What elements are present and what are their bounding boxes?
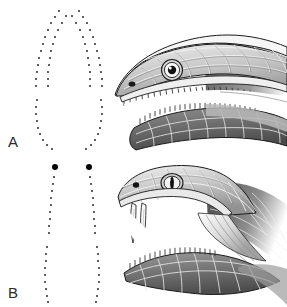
tooth-dot bbox=[36, 71, 38, 73]
tooth-dot bbox=[47, 78, 49, 80]
tooth-dot bbox=[89, 176, 91, 178]
tooth-dot bbox=[89, 71, 91, 73]
tooth-dot bbox=[52, 43, 54, 45]
tooth-dot bbox=[100, 99, 102, 101]
tooth-row-right-maxillary-row bbox=[78, 10, 103, 87]
tooth-dot bbox=[35, 113, 37, 115]
tooth-dot bbox=[50, 204, 52, 206]
tooth-dot bbox=[99, 127, 101, 129]
tooth-dot bbox=[45, 260, 47, 262]
tooth-dot bbox=[97, 260, 99, 262]
tooth-row-left-mandibular-row bbox=[35, 99, 53, 150]
tooth-dot bbox=[90, 183, 92, 185]
tooth-dot bbox=[50, 50, 52, 52]
tooth-dot bbox=[93, 218, 95, 220]
tooth-dot bbox=[78, 10, 80, 12]
panel-a-dentition-diagram bbox=[0, 0, 120, 153]
tooth-dot bbox=[101, 113, 103, 115]
tooth-dot bbox=[65, 15, 67, 17]
tooth-dot bbox=[51, 148, 53, 150]
tooth-row-right-mandibular-row bbox=[85, 99, 103, 150]
snake-a-nostril bbox=[129, 81, 136, 86]
tooth-dot bbox=[46, 295, 48, 297]
tooth-row-right-palatine-pterygoid-row bbox=[89, 176, 96, 234]
tooth-dot bbox=[40, 50, 42, 52]
tooth-dot bbox=[35, 78, 37, 80]
tooth-dot bbox=[100, 71, 102, 73]
tooth-dot bbox=[54, 16, 56, 18]
tooth-dot bbox=[91, 190, 93, 192]
tooth-dot bbox=[101, 85, 103, 87]
viper-b-eye-highlight bbox=[167, 179, 170, 182]
tooth-dot bbox=[101, 78, 103, 80]
viper-b-pupil-vertical-slit bbox=[170, 177, 174, 189]
tooth-dot bbox=[38, 57, 40, 59]
fang-dot-1 bbox=[52, 164, 58, 170]
tooth-dot bbox=[53, 176, 55, 178]
tooth-dot bbox=[39, 133, 41, 135]
tooth-dot bbox=[92, 204, 94, 206]
tooth-dot bbox=[42, 139, 44, 141]
tooth-dot bbox=[50, 22, 52, 24]
tooth-dot bbox=[49, 218, 51, 220]
tooth-dot bbox=[44, 36, 46, 38]
tooth-dot bbox=[49, 211, 51, 213]
tooth-dot bbox=[82, 36, 84, 38]
tooth-dot bbox=[88, 64, 90, 66]
tooth-dot bbox=[97, 253, 99, 255]
tooth-dot bbox=[92, 36, 94, 38]
tooth-dot bbox=[101, 106, 103, 108]
panel-a-snake-head-illustration bbox=[110, 0, 287, 153]
tooth-dot bbox=[89, 29, 91, 31]
tooth-row-right-palatine-pterygoid-row bbox=[71, 15, 91, 87]
tooth-dot bbox=[37, 127, 39, 129]
tooth-dot bbox=[85, 148, 87, 150]
tooth-dot bbox=[82, 16, 84, 18]
tooth-dot bbox=[86, 50, 88, 52]
tooth-dot bbox=[49, 57, 51, 59]
tooth-dot bbox=[89, 78, 91, 80]
tooth-dot bbox=[92, 197, 94, 199]
tooth-dot bbox=[95, 301, 97, 303]
tooth-row-left-palatine-pterygoid-row bbox=[48, 176, 55, 234]
tooth-dot bbox=[48, 64, 50, 66]
tooth-dot bbox=[47, 301, 49, 303]
tooth-dot bbox=[97, 288, 99, 290]
tooth-dot bbox=[45, 253, 47, 255]
tooth-dot bbox=[51, 190, 53, 192]
tooth-dot bbox=[94, 43, 96, 45]
tooth-dot bbox=[98, 281, 100, 283]
tooth-dot bbox=[58, 10, 60, 12]
tooth-row-left-palatine-pterygoid-row bbox=[47, 15, 67, 87]
tooth-dot bbox=[96, 246, 98, 248]
tooth-dot bbox=[37, 64, 39, 66]
tooth-dot bbox=[94, 225, 96, 227]
tooth-dot bbox=[98, 267, 100, 269]
tooth-dot bbox=[47, 85, 49, 87]
tooth-dot bbox=[96, 295, 98, 297]
snake-a-eye-highlight bbox=[169, 67, 172, 70]
tooth-row-left-maxillary-row bbox=[35, 10, 60, 87]
tooth-dot bbox=[100, 120, 102, 122]
tooth-dot bbox=[45, 288, 47, 290]
tooth-dot bbox=[50, 197, 52, 199]
snake-a-eye bbox=[162, 60, 183, 81]
tooth-dot bbox=[98, 274, 100, 276]
panel-b-viper-head-illustration bbox=[110, 153, 287, 307]
tooth-dot bbox=[94, 232, 96, 234]
tooth-dot bbox=[57, 29, 59, 31]
tooth-dot bbox=[46, 144, 48, 146]
tooth-dot bbox=[35, 85, 37, 87]
tooth-dot bbox=[93, 211, 95, 213]
tooth-dot bbox=[44, 281, 46, 283]
tooth-dot bbox=[71, 15, 73, 17]
tooth-dot bbox=[79, 29, 81, 31]
tooth-dot bbox=[89, 85, 91, 87]
panel-b: B bbox=[0, 153, 287, 307]
viper-b-nostril bbox=[133, 182, 139, 187]
snake-dentition-figure: A bbox=[0, 0, 287, 307]
tooth-dot bbox=[54, 36, 56, 38]
tooth-dot bbox=[61, 22, 63, 24]
tooth-dot bbox=[75, 22, 77, 24]
tooth-dot bbox=[42, 43, 44, 45]
